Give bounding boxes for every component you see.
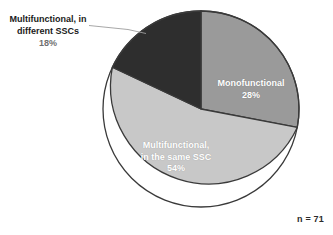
callout-label-line1: Multifunctional, in xyxy=(2,14,94,26)
slice-label-multifunctional-same-ssc-line1: Multifunctional, xyxy=(120,140,232,152)
callout-label-line2: different SSCs xyxy=(2,26,94,38)
slice-label-monofunctional-percent: 28% xyxy=(199,90,303,102)
sample-size-note: n = 71 xyxy=(297,214,324,224)
callout-leader-line xyxy=(89,26,146,34)
slice-label-multifunctional-same-ssc-percent: 54% xyxy=(120,163,232,175)
slice-label-monofunctional: Monofunctional 28% xyxy=(199,78,303,101)
callout-label-percent: 18% xyxy=(2,38,94,50)
callout-label-different-sscs: Multifunctional, in different SSCs 18% xyxy=(2,14,94,50)
pie-chart-figure: Multifunctional, in different SSCs 18% M… xyxy=(0,0,333,235)
slice-label-monofunctional-line1: Monofunctional xyxy=(199,78,303,90)
slice-label-multifunctional-same-ssc-line2: in the same SSC xyxy=(120,152,232,164)
slice-label-multifunctional-same-ssc: Multifunctional, in the same SSC 54% xyxy=(120,140,232,175)
pie-slice-monofunctional[interactable] xyxy=(201,11,299,127)
